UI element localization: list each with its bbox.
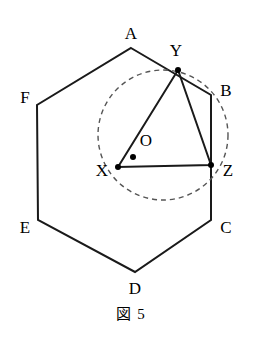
triangle-label-z: Z [223, 162, 233, 179]
hexagon-shape [37, 48, 211, 272]
hexagon-label-b: B [220, 82, 231, 99]
vertex-dot-z [208, 162, 214, 168]
center-label-o: O [140, 132, 152, 149]
triangle-label-x: X [96, 162, 108, 179]
hexagon-label-a: A [125, 25, 137, 42]
hexagon-label-d: D [129, 280, 141, 297]
vertex-dot-x [115, 164, 121, 170]
hexagon-label-f: F [20, 89, 29, 106]
figure-caption: 図 5 [0, 302, 262, 323]
vertex-dot-y [175, 67, 181, 73]
center-point-dot [130, 154, 136, 160]
triangle-label-y: Y [170, 42, 182, 59]
dashed-circle [98, 70, 228, 200]
hexagon-label-c: C [220, 219, 231, 236]
triangle-shape [118, 70, 211, 167]
figure-container: A B C D E F X Y Z O 図 5 [0, 0, 262, 347]
hexagon-label-e: E [20, 219, 30, 236]
